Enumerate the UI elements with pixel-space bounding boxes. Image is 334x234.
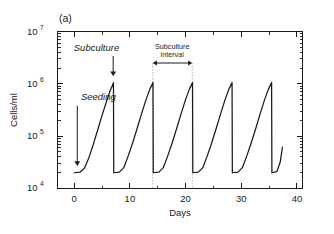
subculture-interval-guides: [153, 63, 193, 188]
y-tick-exp-1e6: 6: [40, 76, 44, 83]
subculture-interval-arrow-head-left: [153, 60, 157, 65]
y-axis-tick-labels: 10 7 10 6 10 5 10 4: [27, 24, 44, 193]
y-axis-title: Cells/ml: [8, 93, 19, 127]
y-tick-base-1e5: 10: [27, 130, 38, 141]
y-tick-exp-1e7: 7: [40, 24, 44, 31]
y-tick-label-1e7: 10 7: [27, 24, 44, 37]
panel-label: (a): [59, 12, 72, 24]
subculture-interval-arrow-head-right: [188, 60, 192, 65]
y-tick-exp-1e4: 4: [40, 180, 44, 187]
y-tick-label-1e6: 10 6: [27, 76, 44, 89]
x-axis-tick-labels: 010203040: [72, 193, 303, 204]
subculture-arrow-head: [110, 72, 116, 77]
annotation-subculture: Subculture: [74, 42, 119, 76]
figure-panel-a: (a) 10 7 10 6 10 5 10 4 Cells/ml: [0, 0, 334, 234]
x-tick-label-4: 40: [292, 193, 303, 204]
x-axis-title: Days: [169, 207, 191, 218]
chart-svg: (a) 10 7 10 6 10 5 10 4 Cells/ml: [0, 0, 334, 234]
subculture-label: Subculture: [74, 42, 119, 53]
y-tick-label-1e4: 10 4: [27, 180, 44, 193]
seeding-arrow-head: [74, 161, 80, 166]
annotation-subculture-interval: Subculture interval: [153, 42, 193, 66]
x-tick-label-1: 10: [125, 193, 136, 204]
y-tick-base-1e4: 10: [27, 182, 38, 193]
x-tick-label-0: 0: [72, 193, 77, 204]
annotation-seeding: Seeding: [74, 91, 116, 166]
y-tick-label-1e5: 10 5: [27, 128, 44, 141]
x-tick-label-2: 20: [180, 193, 191, 204]
y-tick-base-1e7: 10: [27, 26, 38, 37]
x-tick-label-3: 30: [236, 193, 247, 204]
seeding-label: Seeding: [81, 91, 117, 102]
y-tick-exp-1e5: 5: [40, 128, 44, 135]
subculture-interval-label-line2: interval: [161, 50, 185, 59]
y-tick-base-1e6: 10: [27, 78, 38, 89]
